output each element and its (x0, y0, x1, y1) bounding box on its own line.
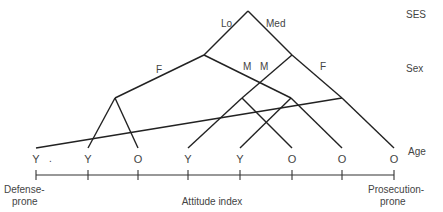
tree-edge (115, 98, 138, 148)
tree-edge (88, 98, 115, 148)
leaf-label: Y (236, 153, 244, 165)
branch-label-m_med: M (260, 61, 268, 72)
tree-edge (115, 55, 204, 98)
tree-edge (240, 98, 291, 148)
branch-label-f_lo: F (156, 64, 162, 75)
axis-left-label-line1: Defense- (4, 184, 45, 195)
tree-edge (242, 98, 292, 148)
attitude-axis (36, 170, 394, 180)
tree-edges (36, 11, 394, 148)
tree-edge (342, 98, 394, 148)
level-labels: SESSexAge (406, 9, 426, 157)
axis-right-label-line2: prone (380, 196, 406, 207)
tree-edge (292, 55, 342, 98)
leaf-label: Y (32, 153, 40, 165)
leaf-label: Y (84, 153, 92, 165)
branch-label-med: Med (266, 18, 285, 29)
leaf-label: O (338, 153, 347, 165)
leaf-label: O (288, 153, 297, 165)
tree-edge (188, 98, 242, 148)
branch-label-m_lo: M (243, 61, 251, 72)
leaf-labels: YYOYYOOO. (32, 153, 398, 165)
level-label-ses: SES (406, 9, 426, 20)
tree-edge (36, 98, 342, 148)
leaf-label: Y (184, 153, 192, 165)
axis-left-label-line2: prone (12, 196, 38, 207)
level-label-sex: Sex (406, 63, 423, 74)
stray-dot: . (49, 153, 52, 164)
axis-title: Attitude index (182, 196, 243, 207)
branch-label-f_med: F (320, 61, 326, 72)
leaf-label: O (134, 153, 143, 165)
branch-label-lo: Lo (221, 18, 233, 29)
level-label-age: Age (408, 146, 426, 157)
leaf-label: O (390, 153, 399, 165)
decision-tree-diagram: LoMedFMMF SESSexAge YYOYYOOO. Defense- p… (0, 0, 443, 212)
axis-right-label-line1: Prosecution- (368, 184, 424, 195)
